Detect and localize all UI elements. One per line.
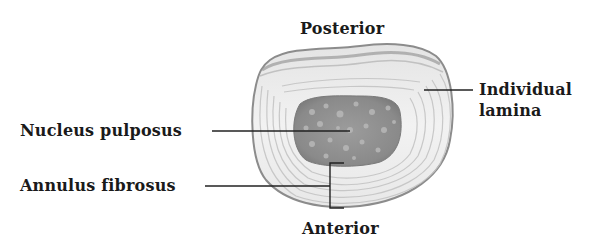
- disc-diagram: Posterior Individual lamina Nucleus pulp…: [0, 0, 599, 246]
- label-individual-lamina-line1: Individual: [479, 80, 572, 99]
- label-posterior: Posterior: [300, 19, 384, 38]
- label-anterior: Anterior: [302, 219, 379, 238]
- label-annulus-fibrosus: Annulus fibrosus: [20, 176, 176, 195]
- label-nucleus-pulposus: Nucleus pulposus: [20, 121, 182, 140]
- label-individual-lamina-line2: lamina: [479, 101, 542, 120]
